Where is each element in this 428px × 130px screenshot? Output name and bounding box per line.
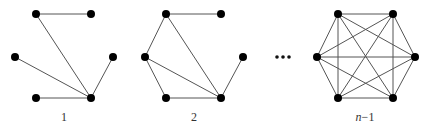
ellipsis-dot-1 (275, 55, 279, 59)
ellipsis-dot-3 (287, 55, 291, 59)
vertex-tr (389, 10, 397, 18)
graph-2-label: 2 (191, 110, 197, 124)
graph-n-minus-1: n−1 (313, 10, 419, 124)
vertex-mr (411, 53, 419, 61)
graph-n-minus-1-edges (317, 14, 415, 98)
edge-ml-br (15, 57, 91, 98)
vertex-br (87, 94, 95, 102)
graph-sequence-diagram: 1 2 n−1 (0, 0, 428, 130)
ellipsis (275, 55, 291, 59)
vertex-tl (32, 10, 40, 18)
edge-tl-br (166, 14, 221, 98)
edge-tr-ml (317, 14, 393, 57)
graph-2: 2 (141, 10, 247, 124)
vertex-bl (162, 94, 170, 102)
graph-n-minus-1-label: n−1 (356, 110, 375, 124)
vertex-mr (239, 53, 247, 61)
edge-tl-ml (145, 14, 166, 57)
vertex-bl (32, 94, 40, 102)
edge-mr-br (221, 57, 243, 98)
vertex-bl (334, 94, 342, 102)
ellipsis-dot-2 (281, 55, 285, 59)
graph-1-edges (15, 14, 113, 98)
vertex-ml (11, 53, 19, 61)
edge-ml-br (317, 57, 393, 98)
graph-1-label: 1 (61, 110, 67, 124)
graph-1: 1 (11, 10, 117, 124)
edge-ml-br (145, 57, 221, 98)
vertex-tl (334, 10, 342, 18)
vertex-br (389, 94, 397, 102)
vertex-tr (217, 10, 225, 18)
vertex-mr (109, 53, 117, 61)
vertex-br (217, 94, 225, 102)
label-minus-one: −1 (362, 110, 375, 124)
vertex-tr (87, 10, 95, 18)
graph-2-edges (145, 14, 243, 98)
vertex-ml (313, 53, 321, 61)
vertex-tl (162, 10, 170, 18)
edge-mr-br (91, 57, 113, 98)
edge-tl-br (36, 14, 91, 98)
vertex-ml (141, 53, 149, 61)
